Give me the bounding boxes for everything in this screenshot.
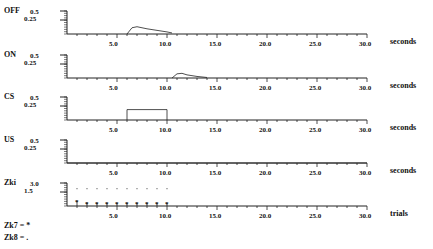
x-unit-label: seconds <box>390 166 416 175</box>
y-tick-mid: 0.25 <box>24 101 36 109</box>
x-tick-label: 10.0 <box>159 126 171 134</box>
x-tick-label: 5.0 <box>109 212 118 220</box>
x-tick-label: 25.0 <box>309 126 321 134</box>
x-tick-label: 10.0 <box>159 84 171 92</box>
x-tick-label: 10.0 <box>159 212 171 220</box>
x-tick-label: 30.0 <box>359 212 371 220</box>
x-tick-label: 25.0 <box>309 84 321 92</box>
y-tick-mid: 0.25 <box>24 59 36 67</box>
x-tick-label: 15.0 <box>209 212 221 220</box>
legend-zk7: Zk7 = * <box>4 221 30 230</box>
y-tick-mid: 1.5 <box>24 187 33 195</box>
x-tick-label: 5.0 <box>109 84 118 92</box>
x-tick-label: 20.0 <box>259 126 271 134</box>
x-tick-label: 5.0 <box>109 169 118 177</box>
x-unit-label: seconds <box>390 123 416 132</box>
x-tick-label: 15.0 <box>209 126 221 134</box>
x-unit-label: seconds <box>390 37 416 46</box>
x-tick-label: 20.0 <box>259 84 271 92</box>
x-tick-label: 10.0 <box>159 169 171 177</box>
panel-label: CS <box>4 92 14 101</box>
panel-label: OFF <box>4 6 20 15</box>
x-tick-label: 30.0 <box>359 40 371 48</box>
x-tick-label: 15.0 <box>209 84 221 92</box>
y-tick-mid: 0.25 <box>24 144 36 152</box>
x-tick-label: 30.0 <box>359 169 371 177</box>
panel-label: US <box>4 135 14 144</box>
y-tick-mid: 0.25 <box>24 15 36 23</box>
x-tick-label: 15.0 <box>209 40 221 48</box>
x-tick-label: 25.0 <box>309 212 321 220</box>
x-tick-label: 25.0 <box>309 40 321 48</box>
x-tick-label: 5.0 <box>109 40 118 48</box>
x-tick-label: 15.0 <box>209 169 221 177</box>
legend-zk8: Zk8 = . <box>4 233 28 242</box>
panel-label: ON <box>4 50 16 59</box>
x-tick-label: 30.0 <box>359 84 371 92</box>
x-tick-label: 30.0 <box>359 126 371 134</box>
x-unit-label: seconds <box>390 81 416 90</box>
x-tick-label: 25.0 <box>309 169 321 177</box>
x-unit-label: trials <box>390 209 408 218</box>
x-tick-label: 5.0 <box>109 126 118 134</box>
x-tick-label: 10.0 <box>159 40 171 48</box>
x-tick-label: 20.0 <box>259 212 271 220</box>
x-tick-label: 20.0 <box>259 40 271 48</box>
x-tick-label: 20.0 <box>259 169 271 177</box>
panel-label: Zki <box>4 178 16 187</box>
